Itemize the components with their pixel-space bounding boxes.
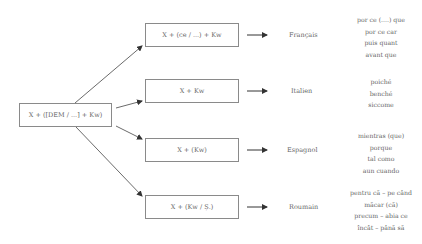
conjunction-item: aun cuando	[336, 165, 422, 177]
conjunction-item: puis quant	[336, 37, 422, 49]
conjunction-list-italien: poiché benché siccome	[336, 76, 422, 111]
conjunction-list-espagnol: mientras (que) porque tal como aun cuand…	[336, 130, 422, 176]
conjunction-item: por ce car	[336, 26, 422, 38]
conjunction-item: tal como	[336, 153, 422, 165]
formula-label: X + Kw	[180, 87, 205, 95]
formula-box-roumain: X + (Kw / Ș.)	[145, 195, 239, 219]
source-formula-box: X + ([DEM / ...] + Kw)	[19, 103, 112, 127]
formula-label: X + (ce / ...) + Kw	[162, 31, 221, 39]
language-label-francais: Français	[289, 31, 318, 39]
formula-box-italien: X + Kw	[145, 79, 239, 103]
formula-box-francais: X + (ce / ...) + Kw	[145, 23, 239, 47]
conjunction-list-francais: por ce (....) que por ce car puis quant …	[336, 14, 422, 60]
source-formula-label: X + ([DEM / ...] + Kw)	[29, 111, 102, 119]
arrow-to-espagnol-formula	[116, 126, 142, 139]
conjunction-item: siccome	[336, 99, 422, 111]
arrow-to-roumain-formula	[76, 127, 142, 196]
conjunction-item: benché	[336, 88, 422, 100]
conjunction-list-roumain: pentru că – pe când măcar (că) precum – …	[336, 187, 422, 233]
conjunction-item: pentru că – pe când	[336, 187, 422, 199]
formula-label: X + (Kw)	[177, 146, 207, 154]
arrow-to-francais-formula	[75, 46, 142, 103]
conjunction-item: precum – abia ce	[336, 210, 422, 222]
language-label-italien: Italien	[291, 87, 312, 95]
formula-label: X + (Kw / Ș.)	[171, 203, 214, 211]
conjunction-item: avant que	[336, 49, 422, 61]
conjunction-item: poiché	[336, 76, 422, 88]
arrow-to-italien-formula	[116, 101, 142, 108]
conjunction-item: porque	[336, 142, 422, 154]
conjunction-item: por ce (....) que	[336, 14, 422, 26]
formula-box-espagnol: X + (Kw)	[145, 138, 239, 162]
language-label-espagnol: Espagnol	[287, 146, 317, 154]
language-label-roumain: Roumain	[289, 203, 318, 211]
conjunction-item: încât – până să	[336, 222, 422, 234]
conjunction-item: mientras (que)	[336, 130, 422, 142]
conjunction-item: măcar (că)	[336, 199, 422, 211]
